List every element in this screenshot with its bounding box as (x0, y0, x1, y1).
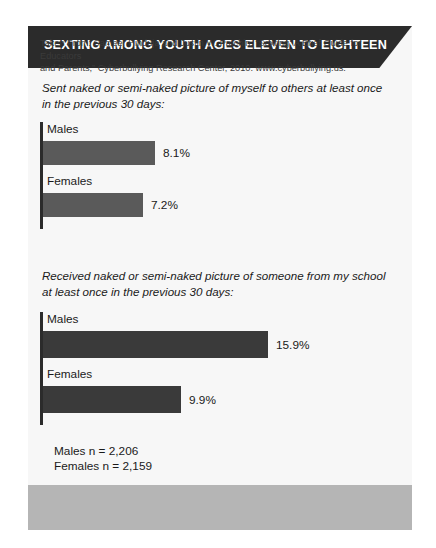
chart-2-value-females: 9.9% (189, 393, 216, 407)
chart-2-label-females: Females (47, 367, 92, 381)
chart-1: Males 8.1% Females 7.2% (40, 122, 380, 229)
source-citation-line-1: Taken From: Sameer Hinduja and Justin W.… (40, 37, 402, 62)
chart-1-label-males: Males (47, 122, 78, 136)
chart-2-value-males: 15.9% (276, 338, 309, 352)
section-2-caption: Received naked or semi-naked picture of … (42, 268, 390, 299)
chart-1-bar-males (43, 141, 155, 165)
chart-1-label-females: Females (47, 174, 92, 188)
footer-banner (28, 485, 412, 530)
chart-1-bar-row-females: Females 7.2% (43, 174, 380, 224)
infographic-page: SEXTING AMONG YOUTH AGES ELEVEN TO EIGHT… (0, 0, 436, 548)
chart-body: Sent naked or semi-naked picture of myse… (28, 68, 412, 485)
infographic-card: SEXTING AMONG YOUTH AGES ELEVEN TO EIGHT… (28, 26, 412, 530)
sample-size-females: Females n = 2,159 (54, 459, 152, 474)
chart-2-bar-females (43, 386, 181, 413)
sample-size-males: Males n = 2,206 (54, 444, 152, 459)
chart-2-bar-males (43, 331, 268, 358)
chart-2-bar-row-females: Females 9.9% (43, 367, 380, 419)
chart-1-value-males: 8.1% (163, 146, 190, 160)
chart-2-bar-row-males: Males 15.9% (43, 312, 380, 364)
source-citation: Taken From: Sameer Hinduja and Justin W.… (40, 37, 402, 75)
sample-size-notes: Males n = 2,206 Females n = 2,159 (54, 444, 152, 474)
section-1-caption: Sent naked or semi-naked picture of myse… (42, 80, 390, 111)
chart-1-bar-row-males: Males 8.1% (43, 122, 380, 172)
chart-1-value-females: 7.2% (151, 198, 178, 212)
source-citation-line-2: and Parents,” Cyberbullying Research Cen… (40, 62, 402, 75)
chart-1-bar-females (43, 193, 143, 217)
chart-2-label-males: Males (47, 312, 78, 326)
chart-2: Males 15.9% Females 9.9% (40, 312, 380, 425)
